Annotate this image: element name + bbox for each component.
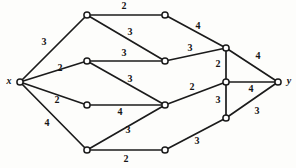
edge-weight-label: 4 xyxy=(249,83,254,94)
edge-weight-label: 3 xyxy=(255,105,260,116)
edges-layer xyxy=(20,15,278,150)
edge-weight-label: 2 xyxy=(190,81,195,92)
edge-weight-label: 2 xyxy=(122,0,127,11)
edge-weight-label: 3 xyxy=(42,36,47,47)
graph-node xyxy=(223,115,229,121)
edge-weight-label: 3 xyxy=(195,135,200,146)
graph-canvas: 32342333244323223443 xy xyxy=(0,0,296,168)
edge-weight-label: 3 xyxy=(126,124,131,135)
graph-edge xyxy=(87,61,165,105)
graph-node xyxy=(162,102,168,108)
weighted-graph-figure: 32342333244323223443 xy xyxy=(0,0,296,168)
graph-node xyxy=(162,12,168,18)
graph-node-y xyxy=(275,79,281,85)
graph-node xyxy=(84,12,90,18)
graph-node-x xyxy=(17,79,23,85)
edge-weight-label: 3 xyxy=(128,73,133,84)
edge-weight-label: 4 xyxy=(196,20,201,31)
edge-weight-label: 2 xyxy=(55,94,60,105)
graph-edge xyxy=(20,82,87,105)
terminal-label-y: y xyxy=(286,75,292,86)
edge-weight-label: 3 xyxy=(216,94,221,105)
edge-weight-label: 2 xyxy=(216,58,221,69)
edge-weight-label: 2 xyxy=(124,153,129,164)
graph-edge xyxy=(20,82,87,150)
edge-weight-label: 4 xyxy=(45,117,50,128)
edge-weight-label: 3 xyxy=(128,26,133,37)
edge-weight-label: 2 xyxy=(58,62,63,73)
graph-node xyxy=(162,58,168,64)
edge-weight-label: 3 xyxy=(188,42,193,53)
edge-weight-label: 3 xyxy=(122,47,127,58)
graph-node xyxy=(84,102,90,108)
edge-weight-label: 4 xyxy=(256,50,261,61)
edge-weight-label: 4 xyxy=(118,106,123,117)
terminal-label-x: x xyxy=(6,75,12,86)
graph-node xyxy=(84,147,90,153)
graph-edge xyxy=(226,48,278,82)
graph-node xyxy=(162,147,168,153)
graph-node xyxy=(223,45,229,51)
graph-node xyxy=(223,79,229,85)
graph-node xyxy=(84,58,90,64)
